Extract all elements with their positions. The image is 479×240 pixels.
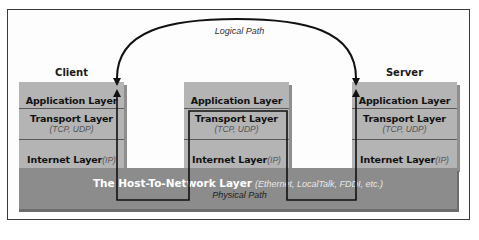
logical-path-label: Logical Path	[0, 26, 479, 36]
router-application-layer: Application Layer	[184, 82, 289, 109]
router-transport-layer: Transport Layer (TCP, UDP)	[184, 109, 289, 140]
client-internet-layer: Internet Layer(IP)	[19, 140, 124, 169]
host-to-network-layer: The Host-To-Network Layer (Ethernet, Loc…	[19, 168, 457, 209]
router-internet-layer: Internet Layer(IP)	[184, 140, 289, 169]
client-application-layer: Application Layer	[19, 82, 124, 109]
client-stack: Application Layer Transport Layer (TCP, …	[19, 82, 124, 169]
host-layer-title: The Host-To-Network Layer (Ethernet, Loc…	[19, 177, 457, 189]
server-application-layer: Application Layer	[352, 82, 457, 109]
server-transport-layer: Transport Layer (TCP, UDP)	[352, 109, 457, 140]
server-internet-layer: Internet Layer(IP)	[352, 140, 457, 169]
server-stack: Application Layer Transport Layer (TCP, …	[352, 82, 457, 169]
client-label: Client	[19, 67, 124, 78]
router-stack: Application Layer Transport Layer (TCP, …	[184, 82, 289, 169]
server-label: Server	[352, 67, 457, 78]
physical-path-label: Physical Path	[0, 190, 479, 200]
client-transport-layer: Transport Layer (TCP, UDP)	[19, 109, 124, 140]
